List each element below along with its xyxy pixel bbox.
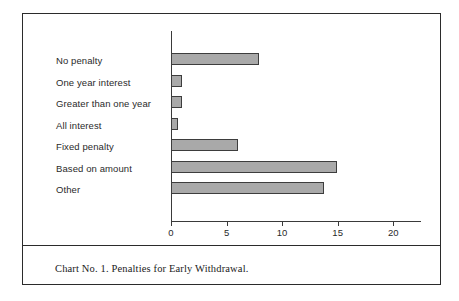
chart-figure-frame: No penalty One year interest Greater tha…	[22, 13, 441, 285]
bar-row	[171, 158, 421, 180]
category-label: Greater than one year	[33, 93, 170, 115]
bar-row	[171, 115, 421, 137]
x-axis-tick-label: 0	[168, 227, 173, 238]
bar-row	[171, 136, 421, 158]
x-axis-tick	[171, 221, 172, 226]
chart-caption: Chart No. 1. Penalties for Early Withdra…	[55, 263, 248, 274]
bar-series	[171, 50, 421, 201]
x-axis-tick	[393, 221, 394, 226]
category-label: One year interest	[33, 72, 170, 94]
bar-row	[171, 50, 421, 72]
bar-row	[171, 179, 421, 201]
x-axis-tick-label: 5	[224, 227, 229, 238]
x-axis-tick	[282, 221, 283, 226]
bar-no-penalty	[171, 53, 259, 65]
category-label: Based on amount	[33, 158, 170, 180]
category-label: Other	[33, 179, 170, 201]
category-label: No penalty	[33, 50, 170, 72]
x-axis-tick-label: 10	[277, 227, 288, 238]
bar-fixed-penalty	[171, 139, 238, 151]
bar-one-year-interest	[171, 75, 182, 87]
x-axis-tick-label: 20	[388, 227, 399, 238]
bar-row	[171, 72, 421, 94]
category-axis-labels: No penalty One year interest Greater tha…	[33, 50, 170, 201]
bar-all-interest	[171, 118, 178, 130]
x-axis-line	[171, 221, 421, 222]
caption-region: Chart No. 1. Penalties for Early Withdra…	[23, 245, 440, 284]
plot-region: No penalty One year interest Greater tha…	[23, 14, 440, 245]
bar-based-on-amount	[171, 161, 337, 173]
x-axis-tick	[338, 221, 339, 226]
bar-other	[171, 182, 324, 194]
bar-row	[171, 93, 421, 115]
bar-greater-than-one-year	[171, 96, 182, 108]
x-axis-tick-label: 15	[332, 227, 343, 238]
category-label: Fixed penalty	[33, 136, 170, 158]
x-axis-tick	[227, 221, 228, 226]
category-label: All interest	[33, 115, 170, 137]
